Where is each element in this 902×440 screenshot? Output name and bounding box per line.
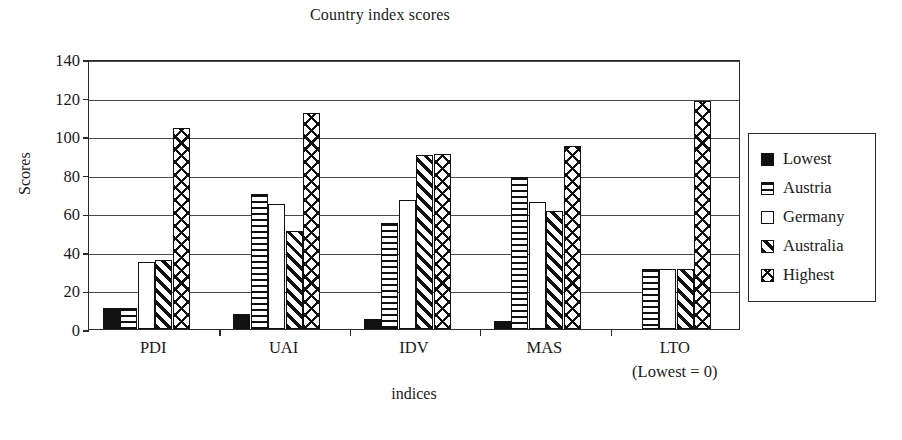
legend-swatch-icon <box>761 182 774 195</box>
x-axis-tick-label: PDI <box>140 338 167 358</box>
x-axis-title: indices <box>88 385 740 403</box>
legend-item: Highest <box>761 261 867 290</box>
x-axis-tick <box>350 329 351 336</box>
legend-label: Lowest <box>783 151 832 168</box>
y-axis-tick-label: 80 <box>64 168 81 185</box>
legend-item: Germany <box>761 203 867 232</box>
x-axis-tick <box>219 329 220 336</box>
legend-swatch-icon <box>761 269 774 282</box>
x-axis-tick-note: (Lowest = 0) <box>632 362 717 382</box>
x-axis-tick <box>480 329 481 336</box>
y-axis-tick-label: 140 <box>55 53 80 70</box>
legend-label: Germany <box>783 209 844 226</box>
legend-item: Australia <box>761 232 867 261</box>
x-axis-tick-label: LTO <box>660 338 690 358</box>
legend-swatch-icon <box>761 211 774 224</box>
x-axis-tick-label: MAS <box>527 338 563 358</box>
legend-item: Austria <box>761 174 867 203</box>
bar-group <box>89 61 741 329</box>
bar <box>694 101 711 329</box>
y-axis-tick-label: 60 <box>64 207 81 224</box>
x-axis-tick <box>611 329 612 336</box>
y-axis-tick-label: 0 <box>72 323 80 340</box>
legend-label: Austria <box>783 180 832 197</box>
x-axis-tick-label: IDV <box>399 338 428 358</box>
legend-swatch-icon <box>761 153 774 166</box>
y-axis-title: Scores <box>16 152 34 195</box>
legend-label: Highest <box>783 267 834 284</box>
chart-title: Country index scores <box>0 6 760 24</box>
bars-layer <box>89 61 739 329</box>
bar <box>677 269 694 329</box>
y-axis-tick-label: 20 <box>64 284 81 301</box>
bar <box>642 269 659 329</box>
chart-legend: LowestAustriaGermanyAustraliaHighest <box>748 133 876 302</box>
bar <box>659 269 676 329</box>
y-axis-tick <box>83 330 89 331</box>
plot-area: 020406080100120140 <box>88 60 740 330</box>
y-axis-tick-label: 40 <box>64 246 81 263</box>
legend-label: Australia <box>783 238 843 255</box>
legend-swatch-icon <box>761 240 774 253</box>
legend-item: Lowest <box>761 145 867 174</box>
y-axis-tick-label: 120 <box>55 91 80 108</box>
y-axis-tick-label: 100 <box>55 130 80 147</box>
chart-figure: Country index scores Scores 020406080100… <box>0 0 902 440</box>
x-axis-tick-label: UAI <box>269 338 298 358</box>
